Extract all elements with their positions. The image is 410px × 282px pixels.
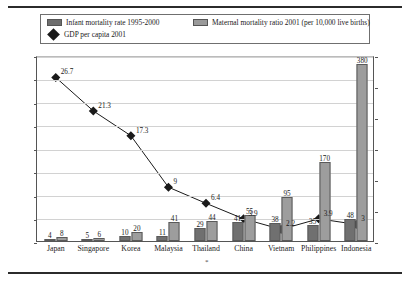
gdp-value-label: 9 <box>173 178 177 186</box>
bar-value-infant: 4 <box>48 232 52 240</box>
x-axis-category-label: Korea <box>121 244 140 253</box>
bar-light-swatch-icon <box>193 19 208 26</box>
y-axis-tick <box>34 150 37 151</box>
y2-axis-tick <box>375 181 378 182</box>
bar-value-infant: 38 <box>272 216 279 224</box>
bar-maternal-mortality <box>131 232 142 241</box>
legend-item-maternal-mortality: Maternal mortality ratio 2001 (per 10,00… <box>193 18 370 27</box>
bar-infant-mortality <box>307 225 318 241</box>
gdp-diamond-marker <box>126 131 135 140</box>
gridline <box>37 126 373 127</box>
y-axis-tick <box>34 173 37 174</box>
gdp-value-label: 3.9 <box>324 210 333 218</box>
y-axis-tick <box>34 243 37 244</box>
gdp-value-label: 3 <box>361 215 365 223</box>
gdp-value-label: 3.9 <box>249 210 258 218</box>
x-axis-category-label: Vietnam <box>268 244 294 253</box>
x-axis-category-label: Japan <box>47 244 65 253</box>
y-axis-tick <box>34 197 37 198</box>
chart-legend: Infant mortality rate 1995-2000 Maternal… <box>40 14 370 44</box>
bar-value-maternal: 44 <box>208 214 215 222</box>
y-axis-tick <box>34 104 37 105</box>
x-axis-category-label: Indonesia <box>341 244 371 253</box>
legend-item-gdp: GDP per capita 2001 <box>47 30 126 39</box>
gdp-diamond-marker <box>201 199 210 208</box>
bar-value-maternal: 8 <box>60 230 64 238</box>
gdp-value-label: 6.4 <box>211 194 220 202</box>
gdp-diamond-marker <box>164 183 173 192</box>
y2-axis-tick <box>375 88 378 89</box>
bar-value-maternal: 380 <box>357 57 368 65</box>
bar-group <box>307 162 330 241</box>
bar-infant-mortality <box>195 228 206 241</box>
bottom-rule <box>8 272 402 274</box>
x-axis-category-label: Philippines <box>301 244 336 253</box>
y2-axis-tick <box>375 150 378 151</box>
bar-value-infant: 41 <box>234 215 241 223</box>
y-axis-tick <box>34 80 37 81</box>
gdp-value-label: 21.3 <box>98 102 111 110</box>
gridline <box>37 80 373 81</box>
x-axis-category-label: Malaysia <box>154 244 183 253</box>
plot-area: 05010015020025030035040005101520253048Ja… <box>36 56 374 242</box>
legend-label-maternal-mortality: Maternal mortality ratio 2001 (per 10,00… <box>212 18 370 27</box>
legend-label-gdp: GDP per capita 2001 <box>64 30 126 39</box>
bar-value-maternal: 95 <box>284 190 291 198</box>
bar-maternal-mortality <box>169 222 180 241</box>
bar-dark-swatch-icon <box>47 19 62 26</box>
x-axis-category-label: China <box>234 244 253 253</box>
bar-value-maternal: 170 <box>319 155 330 163</box>
legend-label-infant-mortality: Infant mortality rate 1995-2000 <box>66 18 159 27</box>
gdp-value-label: 26.7 <box>61 68 74 76</box>
y2-axis-tick <box>375 119 378 120</box>
bar-value-infant: 5 <box>86 232 90 240</box>
chart-container: Infant mortality rate 1995-2000 Maternal… <box>0 0 410 282</box>
bar-value-infant: 10 <box>121 229 128 237</box>
y-axis-tick <box>34 57 37 58</box>
bar-maternal-mortality <box>319 162 330 241</box>
gdp-value-label: 2.2 <box>286 220 295 228</box>
bar-maternal-mortality <box>244 215 255 241</box>
footnote-mark: * <box>205 258 209 266</box>
x-axis-category-label: Singapore <box>78 244 110 253</box>
legend-item-infant-mortality: Infant mortality rate 1995-2000 <box>47 18 159 27</box>
y2-axis-tick <box>375 243 378 244</box>
diamond-marker-icon <box>47 28 60 41</box>
gdp-value-label: 17.3 <box>136 127 149 135</box>
bar-value-maternal: 20 <box>133 225 140 233</box>
bar-value-infant: 29 <box>196 221 203 229</box>
bar-value-maternal: 41 <box>171 215 178 223</box>
bar-value-infant: 35 <box>309 218 316 226</box>
gridline <box>37 150 373 151</box>
gridline <box>37 103 373 104</box>
bar-infant-mortality <box>345 219 356 241</box>
bar-value-maternal: 6 <box>98 231 102 239</box>
bar-infant-mortality <box>232 222 243 241</box>
y2-axis-tick <box>375 57 378 58</box>
x-axis-category-label: Thailand <box>192 244 220 253</box>
bar-value-infant: 48 <box>347 212 354 220</box>
top-rule <box>8 6 402 8</box>
gridline <box>37 57 373 58</box>
y-axis-tick <box>34 127 37 128</box>
y-axis-tick <box>34 220 37 221</box>
bar-infant-mortality <box>270 223 281 241</box>
bar-maternal-mortality <box>207 221 218 241</box>
bar-maternal-mortality <box>282 197 293 241</box>
y2-axis-tick <box>375 212 378 213</box>
bar-value-infant: 11 <box>159 229 166 237</box>
